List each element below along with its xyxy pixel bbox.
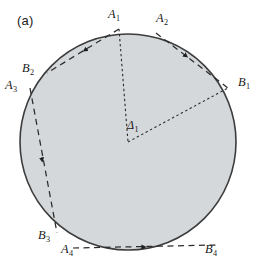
point-label-a1-sub: 1 (116, 14, 120, 23)
point-label-b1-sub: 1 (246, 82, 250, 91)
point-label-b4-sub: 4 (213, 249, 217, 258)
point-label-b3-base: B (38, 228, 46, 242)
point-label-a2-base: A (156, 11, 164, 25)
panel-label: (a) (17, 13, 34, 28)
point-label-a4: A4 (61, 243, 73, 256)
point-label-b1-base: B (238, 75, 246, 89)
point-label-a3: A3 (5, 79, 17, 92)
point-label-b2-base: B (22, 61, 30, 75)
point-label-a1-base: A (108, 7, 116, 21)
point-label-b4: B4 (205, 243, 217, 256)
point-label-a3-base: A (5, 78, 13, 92)
point-label-b4-base: B (205, 242, 213, 256)
point-label-b2: B2 (22, 62, 34, 75)
angle-label-delta1: Δ1 (127, 119, 138, 131)
point-label-a4-sub: 4 (69, 249, 73, 258)
point-label-a2: A2 (156, 12, 168, 25)
figure-panel-a: (a) A1 A2 A3 A4 B1 B2 B3 B4 Δ1 (0, 0, 264, 271)
point-label-a2-sub: 2 (164, 18, 168, 27)
point-label-a4-base: A (61, 242, 69, 256)
point-label-b2-sub: 2 (30, 68, 34, 77)
point-label-b1: B1 (238, 76, 250, 89)
angle-label-delta1-sub: 1 (134, 125, 138, 134)
point-label-b3-sub: 3 (46, 235, 50, 244)
point-label-b3: B3 (38, 229, 50, 242)
point-label-a1: A1 (108, 8, 120, 21)
point-label-a3-sub: 3 (13, 85, 17, 94)
